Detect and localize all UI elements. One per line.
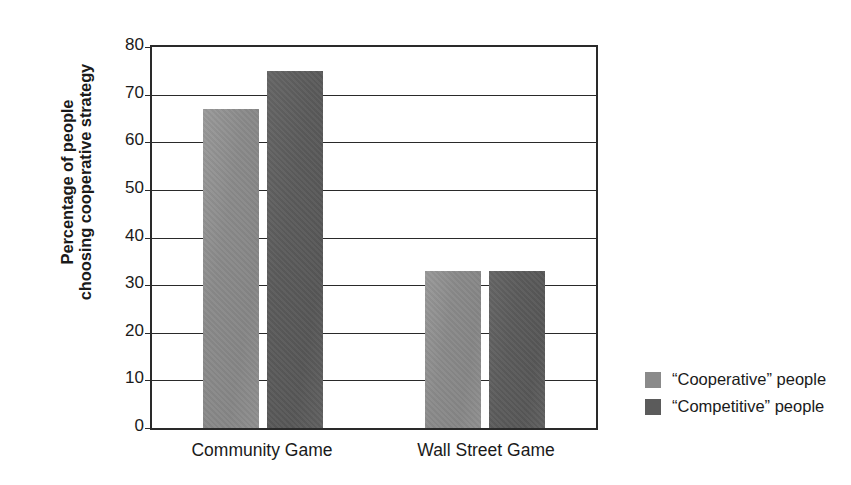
y-axis-title-line-1: Percentage of people xyxy=(58,100,76,265)
x-axis-label-wall-street-game: Wall Street Game xyxy=(374,440,598,461)
legend-label-competitive: “Competitive” people xyxy=(672,397,824,416)
y-axis-tick-label-30: 30 xyxy=(104,273,144,293)
legend-swatch-competitive-icon xyxy=(645,399,661,415)
y-axis-tick-label-40: 40 xyxy=(104,226,144,246)
y-axis-tick-label-60: 60 xyxy=(104,130,144,150)
bar-wall-street-game-competitive xyxy=(489,271,545,428)
legend-item-competitive[interactable]: “Competitive” people xyxy=(645,393,851,420)
y-axis-title: Percentage of people choosing cooperativ… xyxy=(46,22,106,342)
y-axis-tick-labels: 01020304050607080 xyxy=(100,45,144,430)
legend-item-cooperative[interactable]: “Cooperative” people xyxy=(645,366,851,393)
gridline-70 xyxy=(152,95,596,96)
legend-label-cooperative: “Cooperative” people xyxy=(672,370,826,389)
bar-community-game-competitive xyxy=(267,71,323,428)
y-axis-tick-60 xyxy=(145,142,152,143)
y-axis-tick-70 xyxy=(145,95,152,96)
y-axis-tick-40 xyxy=(145,238,152,239)
y-axis-tick-30 xyxy=(145,285,152,286)
y-axis-tick-label-20: 20 xyxy=(104,321,144,341)
legend: “Cooperative” people “Competitive” peopl… xyxy=(645,366,851,420)
y-axis-tick-20 xyxy=(145,333,152,334)
y-axis-tick-50 xyxy=(145,190,152,191)
y-axis-title-line-2: choosing cooperative strategy xyxy=(76,64,94,300)
y-axis-tick-label-0: 0 xyxy=(104,416,144,436)
bar-chart-figure: Percentage of people choosing cooperativ… xyxy=(0,0,851,485)
bar-wall-street-game-cooperative xyxy=(425,271,481,428)
y-axis-tick-label-50: 50 xyxy=(104,178,144,198)
y-axis-tick-10 xyxy=(145,380,152,381)
plot-area xyxy=(150,45,598,430)
bar-community-game-cooperative xyxy=(203,109,259,428)
legend-swatch-cooperative-icon xyxy=(645,372,661,388)
y-axis-tick-label-80: 80 xyxy=(104,35,144,55)
y-axis-tick-label-70: 70 xyxy=(104,83,144,103)
y-axis-tick-80 xyxy=(145,47,152,48)
x-axis-label-community-game: Community Game xyxy=(150,440,374,461)
y-axis-tick-0 xyxy=(145,428,152,429)
y-axis-tick-label-10: 10 xyxy=(104,368,144,388)
